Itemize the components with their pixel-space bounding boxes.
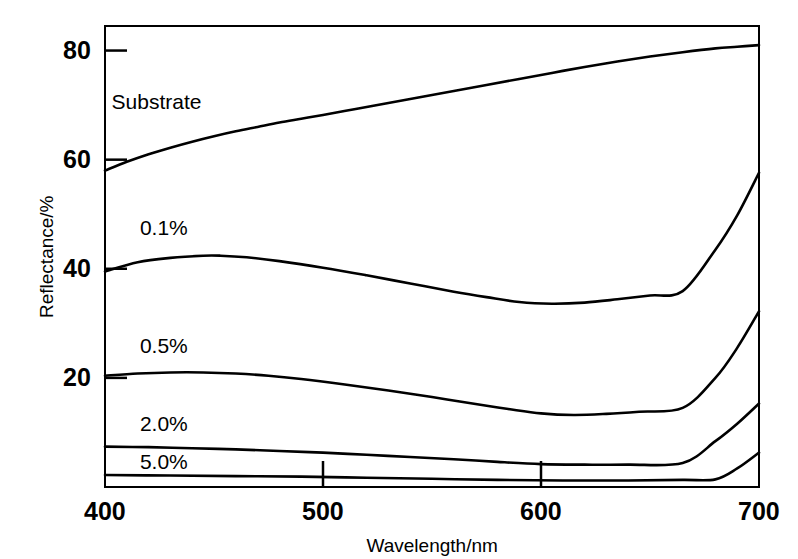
x-tick-label: 400 [84, 497, 126, 526]
y-tick-label: 20 [63, 363, 91, 392]
x-tick-label: 600 [520, 497, 562, 526]
y-axis-title: Reflectance/% [36, 195, 58, 318]
y-tick-label: 60 [63, 145, 91, 174]
reflectance-spectra-chart: 20 40 60 80 400 500 600 700 Wavelength/n… [0, 0, 798, 559]
y-tick-label: 80 [63, 36, 91, 65]
plot-canvas [0, 0, 798, 559]
x-axis-ticks [323, 461, 541, 487]
x-tick-label: 500 [302, 497, 344, 526]
series-label-5-0-percent: 5.0% [140, 450, 188, 474]
x-axis-title: Wavelength/nm [367, 535, 498, 557]
series-label-0-1-percent: 0.1% [140, 216, 188, 240]
data-curves [105, 45, 759, 480]
y-tick-label: 40 [63, 254, 91, 283]
series-label-0-5-percent: 0.5% [140, 334, 188, 358]
x-tick-label: 700 [738, 497, 780, 526]
series-label-2-0-percent: 2.0% [140, 412, 188, 436]
series-label-substrate: Substrate [112, 90, 202, 114]
